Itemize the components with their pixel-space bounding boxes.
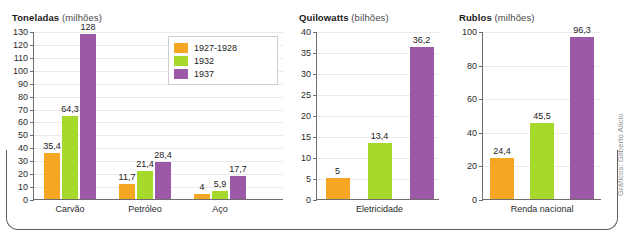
y-axis-tick: [30, 161, 34, 162]
y-axis-tick-label: 120: [13, 40, 28, 50]
y-axis-tick: [30, 187, 34, 188]
chart-panel-rublos: Rublos (milhões) 02040608010024,445,596,…: [452, 0, 630, 242]
y-axis-tick: [30, 71, 34, 72]
y-axis-tick: [479, 32, 483, 33]
bar-value-label: 17,7: [229, 164, 247, 174]
gridline: [34, 32, 283, 33]
x-axis-label-aço: Aço: [212, 204, 228, 214]
gridline: [317, 32, 439, 33]
figure-credit: Gráficos: Gilberto Alicio: [616, 113, 625, 196]
bar-1937-Carvão: 128: [80, 34, 96, 199]
y-axis-tick-label: 130: [13, 27, 28, 37]
y-axis-tick-label: 0: [472, 195, 477, 205]
y-axis-tick: [30, 110, 34, 111]
legend-swatch-1932: [174, 56, 188, 66]
bar-1932-Carvão: 64,3: [62, 116, 78, 199]
y-axis-tick: [479, 66, 483, 67]
y-axis-tick-label: 90: [18, 79, 28, 89]
y-axis-tick: [479, 99, 483, 100]
y-axis-tick-label: 20: [18, 169, 28, 179]
legend-label-1937: 1937: [194, 69, 214, 79]
bar-value-label: 13,4: [371, 131, 389, 141]
legend-item: 1927-1928: [174, 41, 269, 54]
y-axis-tick-label: 100: [13, 66, 28, 76]
y-axis-tick: [479, 200, 483, 201]
bar-value-label: 64,3: [61, 104, 79, 114]
y-axis-tick: [313, 137, 317, 138]
bar-1932-Petróleo: 21,4: [137, 171, 153, 199]
y-axis-tick-label: 40: [18, 143, 28, 153]
y-axis-tick: [30, 174, 34, 175]
gridline: [34, 97, 283, 98]
y-axis-tick-label: 0: [23, 195, 28, 205]
y-axis-tick: [313, 179, 317, 180]
y-axis-tick-label: 80: [18, 92, 28, 102]
bar-value-label: 24,4: [493, 146, 511, 156]
bar-1937-Eletricidade: 36,2: [410, 47, 434, 199]
y-axis-tick-label: 50: [18, 130, 28, 140]
y-axis-tick-label: 20: [301, 111, 311, 121]
y-axis-tick: [30, 32, 34, 33]
y-axis-tick-label: 0: [306, 195, 311, 205]
bar-value-label: 5,9: [214, 179, 227, 189]
y-axis-tick-label: 30: [301, 69, 311, 79]
bar-value-label: 45,5: [533, 111, 551, 121]
y-axis-tick-label: 5: [306, 174, 311, 184]
y-axis-tick-label: 20: [467, 161, 477, 171]
bar-value-label: 11,7: [119, 172, 136, 182]
y-axis-tick: [479, 166, 483, 167]
y-axis-tick: [313, 158, 317, 159]
y-axis-tick: [313, 32, 317, 33]
bar-value-label: 4: [199, 182, 204, 192]
bar-1932-Renda nacional: 45,5: [530, 123, 554, 199]
bar-1927-1928-Eletricidade: 5: [326, 178, 350, 199]
legend-label-1927-1928: 1927-1928: [194, 43, 237, 53]
y-axis-tick-label: 80: [467, 61, 477, 71]
y-axis-tick-label: 110: [14, 53, 28, 63]
chart-panel-toneladas: Toneladas (milhões) 01020304050607080901…: [0, 0, 292, 242]
plot-area-quilowatts: 0510152025303540513,436,2Eletricidade: [316, 32, 439, 200]
bar-1927-1928-Aço: 4: [194, 194, 210, 199]
y-axis-tick-label: 60: [467, 94, 477, 104]
chart-legend: 1927-1928 1932 1937: [168, 36, 278, 85]
bar-value-label: 28,4: [154, 150, 172, 160]
bar-1927-1928-Carvão: 35,4: [44, 153, 60, 199]
legend-label-1932: 1932: [194, 56, 214, 66]
bar-value-label: 96,3: [573, 25, 591, 35]
y-axis-tick-label: 10: [18, 182, 28, 192]
bar-value-label: 35,4: [43, 141, 61, 151]
y-axis-tick-label: 70: [18, 105, 28, 115]
y-axis-tick: [30, 122, 34, 123]
bar-1937-Petróleo: 28,4: [155, 162, 171, 199]
y-axis-tick: [30, 97, 34, 98]
y-axis-tick: [313, 116, 317, 117]
y-axis-tick: [30, 45, 34, 46]
bar-value-label: 5: [335, 166, 340, 176]
chart-panel-quilowatts: Quilowatts (bilhões) 0510152025303540513…: [292, 0, 452, 242]
y-axis-tick-label: 60: [18, 117, 28, 127]
y-axis-tick-label: 30: [18, 156, 28, 166]
y-axis-tick-label: 25: [301, 90, 311, 100]
y-axis-tick: [313, 74, 317, 75]
legend-swatch-1927-1928: [174, 43, 188, 53]
bar-1932-Eletricidade: 13,4: [368, 143, 392, 199]
y-axis-tick: [479, 133, 483, 134]
y-axis-tick-label: 40: [467, 128, 477, 138]
y-axis-tick: [30, 148, 34, 149]
y-axis-tick: [30, 200, 34, 201]
y-axis-tick: [313, 95, 317, 96]
y-axis-tick-label: 15: [301, 132, 311, 142]
bar-1937-Renda nacional: 96,3: [570, 37, 594, 199]
bar-1927-1928-Renda nacional: 24,4: [490, 158, 514, 199]
legend-swatch-1937: [174, 69, 188, 79]
plot-area-rublos: 02040608010024,445,596,3Renda nacional: [482, 32, 601, 200]
y-axis-tick: [30, 84, 34, 85]
y-axis-tick-label: 10: [301, 153, 311, 163]
y-axis-tick: [313, 53, 317, 54]
x-axis-label-renda-nacional: Renda nacional: [511, 204, 574, 214]
legend-item: 1937: [174, 67, 269, 80]
figure-three-bar-charts: Toneladas (milhões) 01020304050607080901…: [0, 0, 630, 242]
y-axis-tick-label: 100: [462, 27, 477, 37]
chart-title-quilowatts: Quilowatts (bilhões): [299, 12, 389, 23]
bar-value-label: 36,2: [413, 35, 431, 45]
